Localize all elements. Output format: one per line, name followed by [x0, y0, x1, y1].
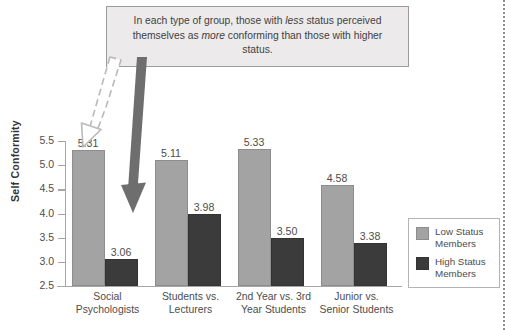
legend-label-line: High Status — [435, 256, 486, 268]
bar-value-label: 5.31 — [78, 137, 99, 149]
bar-value-label: 4.58 — [327, 172, 348, 184]
callout-emphasis-less: less — [285, 15, 303, 26]
legend-item[interactable]: Low StatusMembers — [416, 226, 493, 250]
bar-group: 5.113.98 — [149, 141, 232, 286]
category-label-line: Senior Students — [307, 303, 406, 316]
y-axis-tick-label: 5.5 — [39, 134, 54, 146]
callout-text-1: In each type of group, those with — [134, 15, 286, 26]
category-label-line: Junior vs. — [307, 290, 406, 303]
y-axis-tick-mark — [58, 214, 66, 215]
x-axis-category-label: Junior vs.Senior Students — [307, 290, 406, 316]
y-axis-tick-label: 5.0 — [39, 158, 54, 170]
bar-high-status[interactable]: 3.06 — [105, 259, 138, 286]
bar-value-label: 3.98 — [194, 201, 215, 213]
y-axis-tick-mark — [58, 165, 66, 166]
y-axis-tick-mark — [58, 262, 66, 263]
bar-group: 4.583.38 — [315, 141, 398, 286]
y-axis-tick-mark — [58, 189, 66, 190]
bar-value-label: 3.38 — [360, 230, 381, 242]
y-axis-title: Self Conformity — [9, 101, 21, 221]
y-axis-tick-label: 2.5 — [39, 279, 54, 291]
y-axis-tick-label: 3.0 — [39, 255, 54, 267]
legend: Low StatusMembersHigh StatusMembers — [408, 218, 500, 288]
legend-item[interactable]: High StatusMembers — [416, 256, 493, 280]
legend-swatch-high-status — [416, 257, 429, 270]
bar-low-status[interactable]: 5.11 — [155, 160, 188, 286]
x-axis-line — [57, 286, 402, 287]
bar-high-status[interactable]: 3.50 — [271, 238, 304, 286]
bar-value-label: 5.33 — [244, 136, 265, 148]
y-axis-tick-label: 4.0 — [39, 207, 54, 219]
bar-low-status[interactable]: 5.31 — [72, 150, 105, 286]
callout-emphasis-more: more — [201, 30, 224, 41]
legend-swatch-low-status — [416, 227, 429, 240]
callout-box: In each type of group, those with less s… — [106, 6, 409, 67]
right-margin-rule — [503, 0, 505, 330]
legend-label-line: Members — [435, 238, 483, 250]
plot-area: 2.53.03.54.04.55.05.5 5.313.065.113.985.… — [66, 141, 398, 286]
y-axis-tick-mark — [58, 141, 66, 142]
legend-label: High StatusMembers — [435, 256, 486, 280]
y-axis-tick-mark — [58, 286, 66, 287]
bar-group: 5.333.50 — [232, 141, 315, 286]
bar-value-label: 5.11 — [161, 147, 181, 159]
y-axis-tick-label: 3.5 — [39, 231, 54, 243]
bar-low-status[interactable]: 4.58 — [321, 185, 354, 286]
bar-high-status[interactable]: 3.38 — [354, 243, 387, 286]
y-axis-tick-mark — [58, 238, 66, 239]
legend-label-line: Members — [435, 268, 486, 280]
dashed-outline-arrow-icon — [82, 57, 122, 147]
bar-low-status[interactable]: 5.33 — [238, 149, 271, 286]
bar-high-status[interactable]: 3.98 — [188, 214, 221, 286]
legend-label: Low StatusMembers — [435, 226, 483, 250]
bar-value-label: 3.06 — [111, 246, 132, 258]
callout-text-3: conforming than those with higher status… — [225, 30, 382, 56]
y-axis-tick-label: 4.5 — [39, 182, 54, 194]
bar-value-label: 3.50 — [277, 225, 298, 237]
bar-group: 5.313.06 — [66, 141, 149, 286]
legend-label-line: Low Status — [435, 226, 483, 238]
